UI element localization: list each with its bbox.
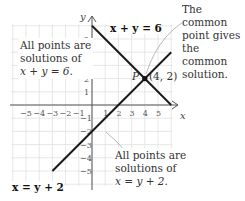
annotation-line: solutions of bbox=[115, 162, 186, 175]
x-tick-label: 5 bbox=[156, 109, 161, 118]
annotation-solutions-eq1: All points are solutions of x + y = 6. bbox=[18, 38, 93, 79]
annotation-line: x + y = 6. bbox=[20, 65, 91, 78]
y-tick-label: −1 bbox=[80, 114, 92, 123]
x-tick-label: 4 bbox=[143, 109, 148, 118]
annotation-line: the common bbox=[182, 42, 245, 68]
x-tick-label: −5 bbox=[20, 109, 32, 118]
x-tick-label: −3 bbox=[46, 109, 58, 118]
annotation-line: solution. bbox=[182, 68, 245, 81]
intersection-point bbox=[142, 76, 147, 81]
point-coords-label: (4, 2) bbox=[149, 70, 177, 83]
point-name-label: P bbox=[132, 70, 139, 83]
y-tick-label: −5 bbox=[80, 167, 92, 176]
annotation-line: All points are bbox=[115, 149, 186, 162]
x-tick-label: 2 bbox=[116, 109, 121, 118]
annotation-line: solutions of bbox=[20, 52, 91, 65]
equation-label-2: x = y + 2 bbox=[12, 181, 64, 193]
y-tick-label: 1 bbox=[84, 88, 89, 97]
annotation-line: point gives bbox=[182, 29, 245, 42]
x-axis-label: x bbox=[180, 110, 186, 121]
annotation-line: The common bbox=[182, 3, 245, 29]
y-tick-label: −2 bbox=[80, 127, 92, 136]
annotation-common-solution: The common point gives the common soluti… bbox=[182, 3, 245, 81]
x-tick-label: −4 bbox=[33, 109, 45, 118]
y-tick-label: −4 bbox=[80, 154, 92, 163]
equation-label-1: x + y = 6 bbox=[110, 22, 162, 34]
annotation-line: x = y + 2. bbox=[115, 175, 186, 188]
annotation-line: All points are bbox=[20, 39, 91, 52]
y-axis-label: y bbox=[79, 11, 86, 22]
x-tick-label: 3 bbox=[130, 109, 135, 118]
x-tick-label: −2 bbox=[60, 109, 72, 118]
annotation-solutions-eq2: All points are solutions of x = y + 2. bbox=[113, 148, 188, 189]
